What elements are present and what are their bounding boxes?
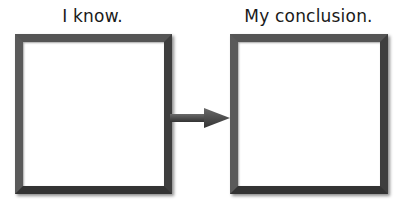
arrow-right-icon: [170, 106, 232, 130]
right-box-label: My conclusion.: [230, 6, 387, 26]
i-know-box[interactable]: [15, 34, 172, 194]
my-conclusion-box[interactable]: [230, 34, 388, 194]
left-box-label: I know.: [15, 6, 170, 26]
